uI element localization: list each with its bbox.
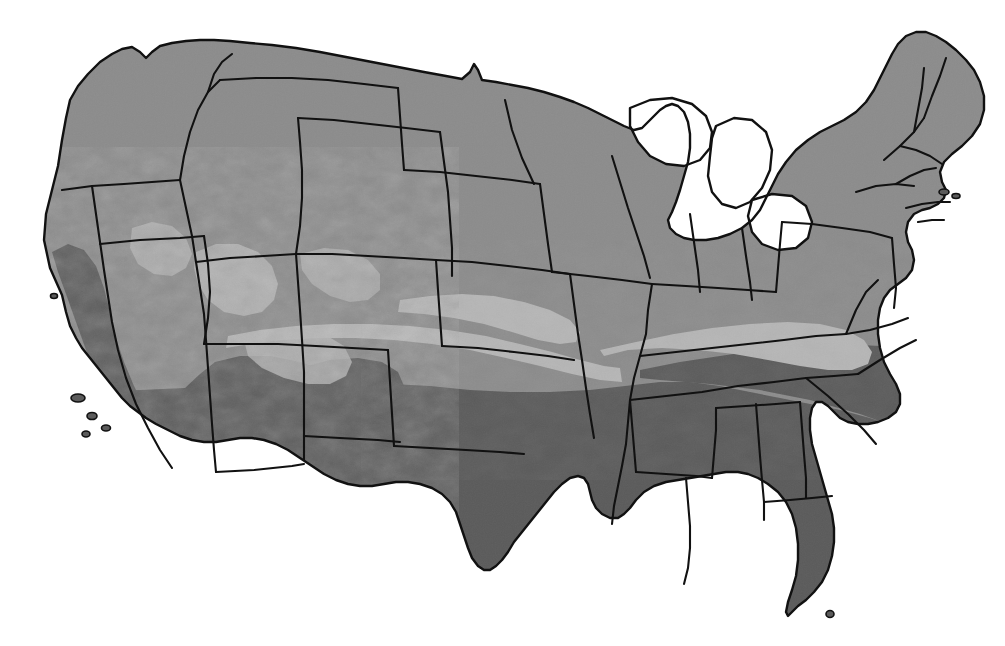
us-grayscale-map [0, 0, 1005, 646]
map-raster-stage [0, 0, 1005, 646]
island-marthas-vineyard [939, 189, 949, 195]
island-farallon [51, 294, 58, 299]
island-santa-rosa [87, 413, 97, 420]
island-santa-catalina [102, 425, 111, 431]
island-santa-cruz [71, 394, 85, 402]
island-san-nicolas [82, 431, 90, 437]
island-florida-key [826, 611, 834, 618]
island-nantucket [952, 194, 960, 199]
figure-panel: (b) [0, 0, 1005, 646]
